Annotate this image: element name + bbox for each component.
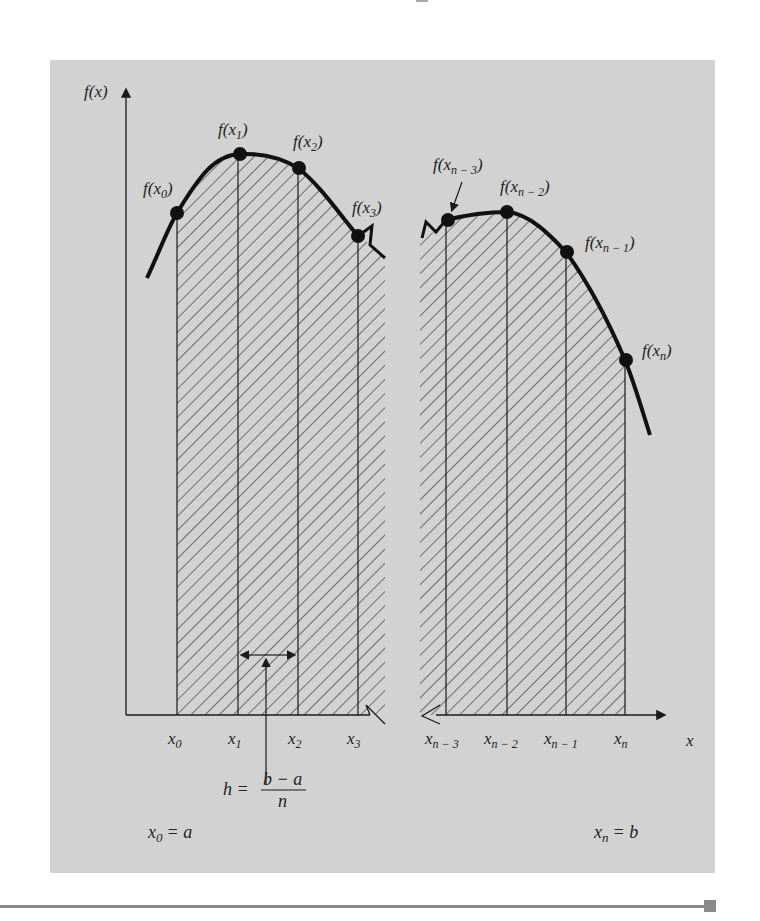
x-axis-label: x <box>685 731 694 750</box>
page-divider-rule <box>0 905 708 908</box>
label-fx3: f(x3) <box>352 198 382 220</box>
tick-xn-2: xn − 2 <box>483 729 518 751</box>
label-fxn-2: f(xn − 2) <box>500 177 550 199</box>
hatched-area-right <box>420 212 625 715</box>
point-fxn <box>619 353 633 367</box>
formula-h-denominator: n <box>278 791 287 811</box>
point-fxn-2 <box>500 205 514 219</box>
formula-h-numerator: b − a <box>263 769 302 789</box>
point-fx0 <box>170 206 184 220</box>
point-fx2 <box>292 161 306 175</box>
label-fx2: f(x2) <box>293 132 323 154</box>
page-divider-end-square <box>704 900 716 912</box>
label-fx0: f(x0) <box>143 179 173 201</box>
label-fx1: f(x1) <box>218 120 248 142</box>
point-fx1 <box>233 147 247 161</box>
start-equation: x0= a <box>147 822 192 845</box>
point-fx3 <box>351 229 365 243</box>
y-axis-label: f(x) <box>84 82 108 101</box>
point-fxn-1 <box>560 245 574 259</box>
tick-x0: x0 <box>167 729 182 751</box>
tick-x1: x1 <box>227 729 242 751</box>
tick-xn: xn <box>613 729 628 751</box>
tick-xn-1: xn − 1 <box>543 729 578 751</box>
trapezoid-figure: f(x) x f(x0) f(x1) f(x2) f(x3) f(xn − 3)… <box>0 0 760 921</box>
tick-xn-3: xn − 3 <box>424 729 459 751</box>
pointer-arrow-fxn-3 <box>452 182 462 210</box>
label-fxn-1: f(xn − 1) <box>585 233 635 255</box>
label-fxn-3: f(xn − 3) <box>433 155 483 177</box>
tick-x3: x3 <box>346 729 361 751</box>
end-equation: xn= b <box>593 822 638 845</box>
label-fxn: f(xn) <box>642 341 672 363</box>
formula-h-lhs: h = <box>223 779 249 799</box>
tick-x2: x2 <box>287 729 302 751</box>
point-fxn-3 <box>441 213 455 227</box>
